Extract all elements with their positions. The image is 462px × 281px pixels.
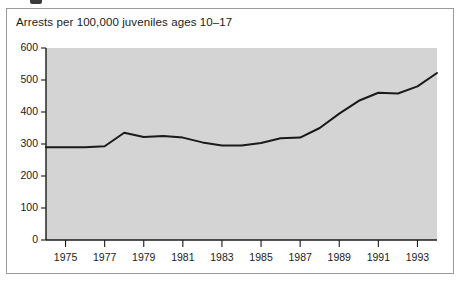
y-axis-tick-label: 400: [20, 105, 38, 117]
x-axis-tick-label: 1991: [367, 251, 391, 263]
x-axis-ticks: [66, 240, 418, 247]
x-axis-tick-label: 1983: [210, 251, 234, 263]
figure-root: Arrests per 100,000 juveniles ages 10–17…: [0, 0, 462, 281]
x-axis-tick-label: 1975: [54, 251, 78, 263]
x-axis-tick-label: 1981: [171, 251, 195, 263]
plot-area: 6005004003002001000 19751977197919811983…: [0, 0, 462, 281]
y-axis-ticks: [41, 48, 46, 240]
y-axis-tick-label: 600: [20, 41, 38, 53]
y-axis-tick-label: 500: [20, 73, 38, 85]
y-axis-tick-label: 200: [20, 169, 38, 181]
y-axis-tick-label: 100: [20, 201, 38, 213]
x-axis-tick-label: 1993: [406, 251, 430, 263]
plot-background: [46, 48, 437, 240]
line-chart-svg: 6005004003002001000 19751977197919811983…: [0, 0, 462, 281]
x-axis-tick-label: 1977: [93, 251, 117, 263]
x-axis-tick-label: 1987: [288, 251, 312, 263]
x-axis-labels: 1975197719791981198319851987198919911993: [54, 251, 429, 263]
y-axis-tick-label: 300: [20, 137, 38, 149]
x-axis-tick-label: 1989: [328, 251, 352, 263]
x-axis-tick-label: 1979: [132, 251, 156, 263]
y-axis-tick-label: 0: [32, 233, 38, 245]
x-axis-tick-label: 1985: [249, 251, 273, 263]
y-axis-labels: 6005004003002001000: [20, 41, 38, 245]
